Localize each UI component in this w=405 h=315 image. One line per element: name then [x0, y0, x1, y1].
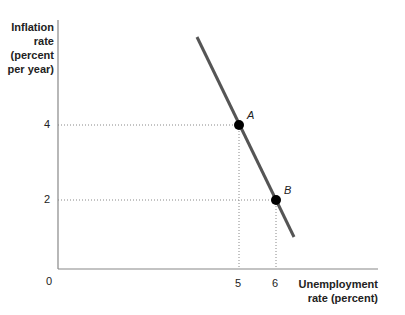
- y-title-line: per year): [2, 62, 54, 76]
- chart-canvas: [0, 0, 405, 315]
- y-tick-2: 2: [44, 193, 50, 205]
- x-tick-6: 6: [272, 277, 278, 289]
- x-tick-5: 5: [235, 277, 241, 289]
- point-b-marker: [271, 195, 281, 205]
- point-b-label: B: [284, 184, 291, 196]
- point-a-label: A: [247, 109, 254, 121]
- x-title-line: rate (percent): [290, 291, 378, 305]
- y-title-line: Inflation: [2, 20, 54, 34]
- y-title-line: rate: [2, 34, 54, 48]
- x-axis-title: Unemployment rate (percent): [290, 277, 378, 305]
- origin-label: 0: [46, 275, 52, 287]
- y-title-line: (percent: [2, 48, 54, 62]
- y-tick-4: 4: [44, 118, 50, 130]
- phillips-curve-line: [197, 37, 294, 237]
- point-a-marker: [234, 120, 244, 130]
- x-title-line: Unemployment: [290, 277, 378, 291]
- y-axis-title: Inflation rate (percent per year): [2, 20, 54, 76]
